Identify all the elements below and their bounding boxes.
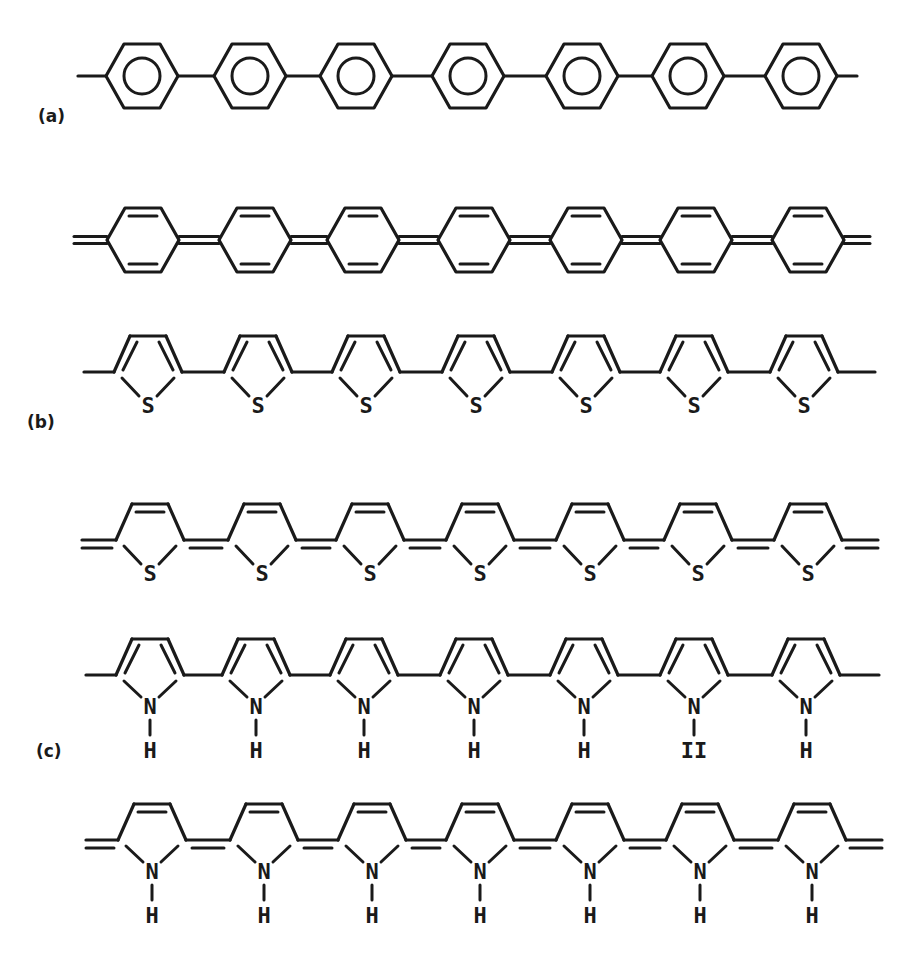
hydrogen-atom-label: H <box>143 738 156 763</box>
hydrogen-atom-label: H <box>467 738 480 763</box>
nitrogen-atom-label: N <box>357 694 370 719</box>
panel-label-b: (b) <box>27 412 55 432</box>
structure-drawing: SSSSSSSSSSSSSSNHNHNHNHNHNIINHNHNHNHNHNHN… <box>0 0 914 955</box>
nitrogen-atom-label: N <box>467 694 480 719</box>
nitrogen-atom-label: N <box>693 859 706 884</box>
benzene-ring <box>320 44 392 108</box>
sulfur-atom-label: S <box>473 561 486 586</box>
sulfur-atom-label: S <box>359 393 372 418</box>
sulfur-atom-label: S <box>251 393 264 418</box>
pyrrole-ring: NH <box>116 639 184 763</box>
benzene-ring <box>660 208 732 272</box>
sulfur-atom-label: S <box>583 561 596 586</box>
thiophene-ring: S <box>664 504 732 586</box>
sulfur-atom-label: S <box>141 393 154 418</box>
panel-label-c: (c) <box>36 741 62 761</box>
sulfur-atom-label: S <box>579 393 592 418</box>
benzene-ring <box>652 44 724 108</box>
conjugated-polymer-structures-figure: SSSSSSSSSSSSSSNHNHNHNHNHNIINHNHNHNHNHNHN… <box>0 0 914 955</box>
sulfur-atom-label: S <box>363 561 376 586</box>
nitrogen-atom-label: N <box>577 694 590 719</box>
benzene-ring <box>438 208 510 272</box>
benzene-ring <box>214 44 286 108</box>
nitrogen-atom-label: N <box>583 859 596 884</box>
nitrogen-atom-label: N <box>145 859 158 884</box>
nitrogen-atom-label: N <box>687 694 700 719</box>
polymer-chain-a-quinoid <box>74 208 870 272</box>
thiophene-ring: S <box>228 504 296 586</box>
nitrogen-atom-label: N <box>799 694 812 719</box>
nitrogen-atom-label: N <box>249 694 262 719</box>
pyrrole-ring: NH <box>338 804 406 928</box>
hydrogen-atom-label: H <box>473 903 486 928</box>
hydrogen-atom-label: H <box>257 903 270 928</box>
pyrrole-ring: NII <box>660 639 728 763</box>
thiophene-ring: S <box>770 336 838 418</box>
pyrrole-ring: NH <box>446 804 514 928</box>
pyrrole-ring: NH <box>222 639 290 763</box>
pyrrole-ring: NH <box>330 639 398 763</box>
benzene-ring <box>432 44 504 108</box>
pyrrole-ring: NH <box>440 639 508 763</box>
panel-label-a: (a) <box>38 106 65 126</box>
thiophene-ring: S <box>224 336 292 418</box>
benzene-ring <box>107 208 179 272</box>
thiophene-ring: S <box>114 336 182 418</box>
benzene-ring <box>546 44 618 108</box>
sulfur-atom-label: S <box>691 561 704 586</box>
thiophene-ring: S <box>774 504 842 586</box>
nitrogen-atom-label: N <box>257 859 270 884</box>
benzene-ring <box>106 44 178 108</box>
sulfur-atom-label: S <box>801 561 814 586</box>
sulfur-atom-label: S <box>797 393 810 418</box>
hydrogen-atom-label: H <box>583 903 596 928</box>
thiophene-ring: S <box>116 504 184 586</box>
benzene-ring <box>772 208 844 272</box>
benzene-ring <box>765 44 837 108</box>
thiophene-ring: S <box>442 336 510 418</box>
polymer-chain-c-quinoid: NHNHNHNHNHNHNH <box>86 804 882 928</box>
pyrrole-ring: NH <box>230 804 298 928</box>
hydrogen-atom-label: H <box>577 738 590 763</box>
pyrrole-ring: NH <box>118 804 186 928</box>
nitrogen-atom-label: N <box>365 859 378 884</box>
thiophene-ring: S <box>556 504 624 586</box>
polymer-chain-c-aromatic: NHNHNHNHNHNIINH <box>86 639 879 763</box>
hydrogen-atom-label: H <box>365 903 378 928</box>
hydrogen-atom-label: H <box>145 903 158 928</box>
sulfur-atom-label: S <box>143 561 156 586</box>
polymer-chain-a-aromatic <box>78 44 857 108</box>
thiophene-ring: S <box>660 336 728 418</box>
benzene-ring <box>219 208 291 272</box>
thiophene-ring: S <box>552 336 620 418</box>
hydrogen-atom-label: II <box>681 738 708 763</box>
nitrogen-atom-label: N <box>143 694 156 719</box>
polymer-chain-b-quinoid: SSSSSSS <box>82 504 878 586</box>
sulfur-atom-label: S <box>469 393 482 418</box>
pyrrole-ring: NH <box>666 804 734 928</box>
hydrogen-atom-label: H <box>799 738 812 763</box>
hydrogen-atom-label: H <box>249 738 262 763</box>
thiophene-ring: S <box>332 336 400 418</box>
nitrogen-atom-label: N <box>805 859 818 884</box>
polymer-chain-b-aromatic: SSSSSSS <box>84 336 875 418</box>
sulfur-atom-label: S <box>255 561 268 586</box>
pyrrole-ring: NH <box>772 639 840 763</box>
benzene-ring <box>327 208 399 272</box>
sulfur-atom-label: S <box>687 393 700 418</box>
pyrrole-ring: NH <box>556 804 624 928</box>
nitrogen-atom-label: N <box>473 859 486 884</box>
pyrrole-ring: NH <box>550 639 618 763</box>
thiophene-ring: S <box>336 504 404 586</box>
hydrogen-atom-label: H <box>693 903 706 928</box>
hydrogen-atom-label: H <box>805 903 818 928</box>
thiophene-ring: S <box>446 504 514 586</box>
pyrrole-ring: NH <box>778 804 846 928</box>
hydrogen-atom-label: H <box>357 738 370 763</box>
benzene-ring <box>550 208 622 272</box>
